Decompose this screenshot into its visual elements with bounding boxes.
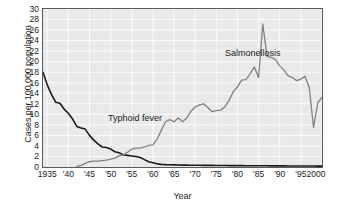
- x-tick-label: '80: [232, 170, 243, 179]
- x-tick-label: 1935: [38, 170, 57, 179]
- y-tick-label: 2: [20, 152, 39, 161]
- x-tick-label: '70: [190, 170, 201, 179]
- y-tick-label: 6: [20, 131, 39, 140]
- x-tick-label: '45: [84, 170, 95, 179]
- x-tick-label: '65: [168, 170, 179, 179]
- x-tick-label: '95: [295, 170, 306, 179]
- x-axis-ticks: 1935'40'45'50'55'60'65'70'75'80'85'90'95…: [0, 170, 343, 184]
- y-tick-label: 4: [20, 142, 39, 151]
- x-tick-label: '50: [105, 170, 116, 179]
- y-tick-label: 26: [20, 26, 39, 35]
- y-tick-label: 18: [20, 68, 39, 77]
- x-tick-label: '75: [211, 170, 222, 179]
- x-tick-label: 2000: [307, 170, 326, 179]
- gridlines: [43, 9, 322, 167]
- y-tick-label: 28: [20, 15, 39, 24]
- x-tick-label: '85: [253, 170, 264, 179]
- y-tick-label: 16: [20, 79, 39, 88]
- series-line-salmonellosis: [77, 24, 322, 166]
- series-lines: [43, 24, 322, 166]
- y-tick-label: 24: [20, 36, 39, 45]
- series-line-typhoid-fever: [43, 72, 322, 166]
- chart-figure: Cases per 100,000 population 02468101214…: [0, 0, 343, 215]
- chart-canvas: [43, 9, 322, 167]
- y-tick-label: 12: [20, 100, 39, 109]
- y-axis-ticks: 024681012141618202224262830: [20, 4, 39, 174]
- y-tick-label: 10: [20, 110, 39, 119]
- y-tick-label: 22: [20, 47, 39, 56]
- x-tick-label: '40: [63, 170, 74, 179]
- x-tick-label: '60: [147, 170, 158, 179]
- series-label-typhoid-fever: Typhoid fever: [108, 113, 162, 123]
- plot-area: Typhoid fever Salmonellosis: [42, 8, 323, 168]
- x-tick-label: '90: [274, 170, 285, 179]
- y-tick-label: 30: [20, 5, 39, 14]
- y-tick-label: 14: [20, 89, 39, 98]
- x-axis-title: Year: [42, 191, 323, 201]
- x-tick-label: '55: [126, 170, 137, 179]
- series-label-salmonellosis: Salmonellosis: [225, 48, 281, 58]
- y-tick-label: 20: [20, 57, 39, 66]
- y-tick-label: 8: [20, 121, 39, 130]
